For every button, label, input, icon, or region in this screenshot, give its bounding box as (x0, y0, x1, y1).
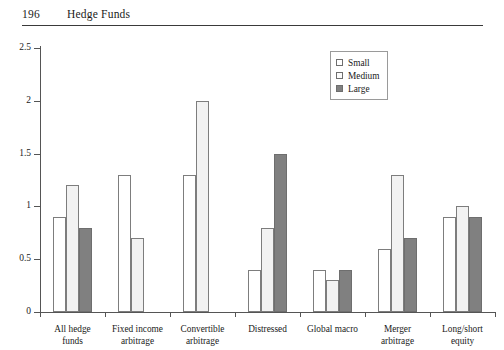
y-tick-label: 0 (0, 306, 31, 316)
legend-swatch-medium (336, 72, 343, 79)
legend-label-large: Large (348, 84, 370, 94)
page: 196 Hedge Funds 00.511.522.5 All hedgefu… (0, 0, 504, 350)
bar-large (469, 217, 482, 312)
legend-swatch-small (336, 59, 343, 66)
category-label-line: arbitrage (105, 336, 170, 348)
bar-medium (391, 175, 404, 312)
bar-group (430, 48, 495, 312)
legend-label-small: Small (348, 58, 370, 68)
chart-legend: Small Medium Large (330, 51, 388, 100)
bar-group (235, 48, 300, 312)
bar-medium (326, 280, 339, 312)
category-label-line: funds (40, 336, 105, 348)
y-tick-label: 1 (0, 200, 31, 210)
category-labels: All hedgefundsFixed incomearbitrageConve… (40, 324, 495, 350)
y-tick-label: 0.5 (0, 253, 31, 263)
bar-large (339, 270, 352, 312)
bar-small (443, 217, 456, 312)
bar-medium (131, 238, 144, 312)
bar-group (40, 48, 105, 312)
legend-label-medium: Medium (348, 71, 380, 81)
bar-medium (261, 228, 274, 312)
y-tick-label: 2.5 (0, 42, 31, 52)
category-label-line: Convertible (170, 324, 235, 336)
x-tick (40, 312, 41, 317)
category-label-line: arbitrage (365, 336, 430, 348)
bar-chart: 00.511.522.5 All hedgefundsFixed incomea… (0, 40, 504, 340)
bar-large (79, 228, 92, 312)
bar-group (105, 48, 170, 312)
bar-large (404, 238, 417, 312)
x-tick (365, 312, 366, 317)
category-label-line: Fixed income (105, 324, 170, 336)
bar-small (53, 217, 66, 312)
bar-small (118, 175, 131, 312)
bar-medium (456, 206, 469, 312)
bar-small (313, 270, 326, 312)
legend-item-large: Large (336, 82, 380, 95)
category-label: Global macro (300, 324, 365, 350)
running-header: 196 Hedge Funds (0, 8, 504, 34)
bar-medium (196, 101, 209, 312)
y-tick-label: 2 (0, 95, 31, 105)
category-label: Long/shortequity (430, 324, 495, 350)
x-axis-line (40, 312, 495, 313)
category-label: All hedgefunds (40, 324, 105, 350)
x-tick (235, 312, 236, 317)
page-number: 196 (22, 8, 40, 20)
x-tick (495, 312, 496, 317)
category-label: Mergerarbitrage (365, 324, 430, 350)
header-rule (22, 25, 483, 26)
category-label-line: equity (430, 336, 495, 348)
bar-small (183, 175, 196, 312)
legend-swatch-large (336, 85, 343, 92)
category-label: Fixed incomearbitrage (105, 324, 170, 350)
category-label-line: Long/short (430, 324, 495, 336)
category-label-line: Global macro (300, 324, 365, 336)
bar-large (274, 154, 287, 312)
bar-group (170, 48, 235, 312)
x-tick (300, 312, 301, 317)
header-title: Hedge Funds (67, 8, 130, 20)
category-label-line: All hedge (40, 324, 105, 336)
category-label-line: Merger (365, 324, 430, 336)
x-tick (105, 312, 106, 317)
bar-small (378, 249, 391, 312)
bar-medium (66, 185, 79, 312)
bar-groups (40, 48, 495, 312)
legend-item-small: Small (336, 56, 380, 69)
category-label-line: arbitrage (170, 336, 235, 348)
x-tick (430, 312, 431, 317)
category-label-line: Distressed (235, 324, 300, 336)
category-label: Distressed (235, 324, 300, 350)
y-tick-label: 1.5 (0, 148, 31, 158)
bar-small (248, 270, 261, 312)
x-tick (170, 312, 171, 317)
category-label: Convertiblearbitrage (170, 324, 235, 350)
legend-item-medium: Medium (336, 69, 380, 82)
